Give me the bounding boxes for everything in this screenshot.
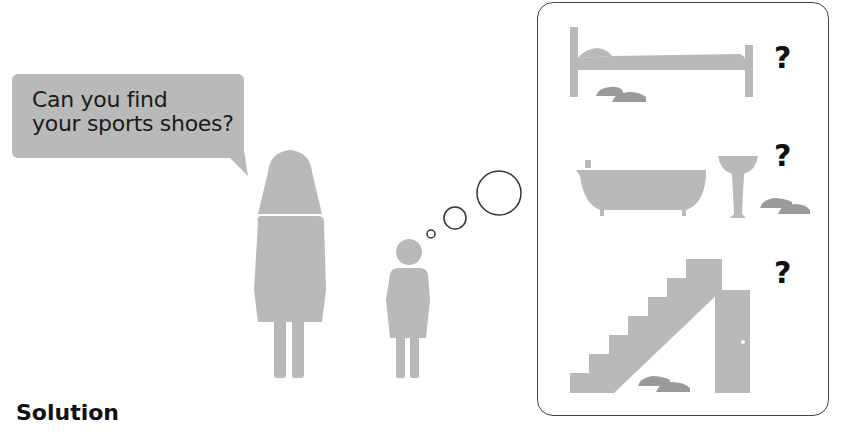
question-mark-stairs: ? [774,255,791,290]
stairs-scene-icon [0,0,842,437]
solution-heading: Solution [16,400,119,425]
shoes-under-stairs [638,376,690,392]
